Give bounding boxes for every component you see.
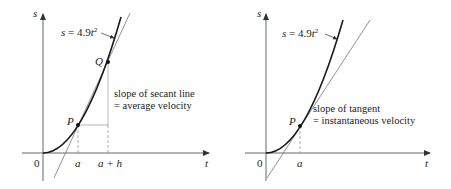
secant-annotation-line1: slope of secant line — [114, 88, 195, 99]
right-t-axis-label: t — [425, 157, 429, 169]
secant-annotation-line2: = average velocity — [114, 100, 192, 111]
point-p-left — [76, 123, 80, 127]
tangent-annotation-line2: = instantaneous velocity — [313, 115, 416, 126]
point-q — [106, 60, 110, 64]
left-tick-a-label: a — [75, 157, 81, 169]
left-origin-label: 0 — [34, 157, 40, 169]
left-panel-secant: s t 0 s = 4.9t2 Q P a a + h slope of sec… — [22, 7, 209, 181]
left-s-axis-label: s — [33, 7, 37, 19]
point-p-left-label: P — [66, 115, 74, 127]
tangent-line — [267, 20, 370, 178]
right-tick-a-label: a — [297, 157, 303, 169]
left-curve-label-pointer — [101, 33, 114, 38]
point-p-right-label: P — [288, 115, 296, 127]
point-p-right — [298, 124, 302, 128]
right-curve-label-pointer — [325, 34, 337, 39]
tick-a-plus-h-label: a + h — [98, 157, 122, 169]
left-t-axis-label: t — [205, 157, 209, 169]
right-panel-tangent: s t 0 s = 4.9t2 P a slope of tangent = i… — [245, 7, 430, 181]
left-curve-label: s = 4.9t2 — [61, 26, 98, 38]
right-origin-label: 0 — [257, 157, 263, 169]
right-s-axis-label: s — [257, 7, 261, 19]
tangent-annotation-line1: slope of tangent — [313, 103, 380, 114]
point-q-label: Q — [95, 55, 103, 67]
right-curve-label: s = 4.9t2 — [282, 27, 319, 39]
right-curve — [266, 20, 343, 153]
secant-tangent-figure: s t 0 s = 4.9t2 Q P a a + h slope of sec… — [0, 0, 451, 189]
